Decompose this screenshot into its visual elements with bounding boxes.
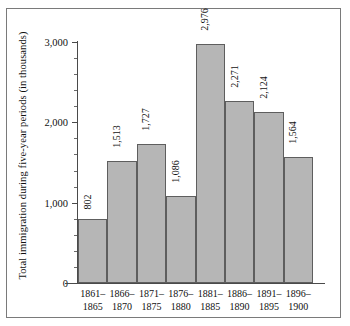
- bar: 1,513: [107, 161, 136, 283]
- x-tick-label-line1: 1881–: [196, 287, 225, 300]
- x-tick-label-line1: 1861–: [78, 287, 107, 300]
- bar-value-label: 1,727: [141, 109, 151, 132]
- bar: 2,976: [196, 44, 225, 283]
- x-tick-label: 1881–1885: [196, 287, 225, 313]
- x-tick-label-line2: 1895: [254, 300, 283, 313]
- bar: 2,271: [225, 101, 254, 283]
- x-tick-label-line2: 1880: [166, 300, 195, 313]
- x-tick-label: 1871–1875: [137, 287, 166, 313]
- bar-value-text: 1,513: [112, 126, 122, 149]
- bar-value-text: 2,124: [259, 77, 269, 100]
- y-tick-label: 3,000: [44, 37, 68, 48]
- bar-value-text: 2,976: [200, 8, 210, 31]
- bar-value-label: 2,976: [200, 8, 210, 31]
- x-tick-label-line1: 1871–: [137, 287, 166, 300]
- bar-value-text: 1,086: [171, 160, 181, 183]
- bar: 2,124: [254, 112, 283, 283]
- bar: 802: [78, 219, 107, 283]
- y-tick-label: 2,000: [44, 117, 68, 128]
- x-tick-label-line2: 1900: [284, 300, 313, 313]
- y-tick-label: 1,000: [44, 197, 68, 208]
- x-tick-label-line1: 1896–: [284, 287, 313, 300]
- bar-value-text: 2,271: [230, 65, 240, 88]
- x-tick-label: 1876–1880: [166, 287, 195, 313]
- bar-value-label: 2,271: [230, 65, 240, 88]
- x-tick-label: 1886–1890: [225, 287, 254, 313]
- x-tick-label: 1861–1865: [78, 287, 107, 313]
- x-tick-label-line1: 1886–: [225, 287, 254, 300]
- bar-value-label: 1,513: [112, 126, 122, 149]
- x-tick-label: 1866–1870: [107, 287, 136, 313]
- x-tick-label-line2: 1885: [196, 300, 225, 313]
- bar-value-label: 1,564: [288, 122, 298, 145]
- bar-value-label: 2,124: [259, 77, 269, 100]
- y-axis-tick-labels: 01,0002,0003,000: [20, 41, 68, 284]
- x-tick-label: 1891–1895: [254, 287, 283, 313]
- x-tick-label: 1896–1900: [284, 287, 313, 313]
- bar: 1,727: [137, 144, 166, 283]
- x-tick-label-line1: 1891–: [254, 287, 283, 300]
- plot-area: 8021,5131,7271,0862,9762,2712,1241,564: [78, 42, 313, 283]
- bar-value-text: 802: [83, 194, 93, 209]
- x-tick-label-line1: 1876–: [166, 287, 195, 300]
- bar-value-text: 1,564: [288, 122, 298, 145]
- x-tick-label-line1: 1866–: [107, 287, 136, 300]
- x-axis-line: [65, 283, 325, 284]
- bar-value-label: 1,086: [171, 160, 181, 183]
- bar: 1,564: [284, 157, 313, 283]
- x-tick-label-line2: 1890: [225, 300, 254, 313]
- x-tick-label-line2: 1865: [78, 300, 107, 313]
- x-tick-label-line2: 1870: [107, 300, 136, 313]
- x-axis-tick-labels: 1861–18651866–18701871–18751876–18801881…: [78, 287, 313, 319]
- bar: 1,086: [166, 196, 195, 283]
- figure: Total immigration during five-year perio…: [0, 0, 350, 326]
- x-tick-label-line2: 1875: [137, 300, 166, 313]
- bar-value-text: 1,727: [141, 109, 151, 132]
- bar-value-label: 802: [83, 194, 93, 209]
